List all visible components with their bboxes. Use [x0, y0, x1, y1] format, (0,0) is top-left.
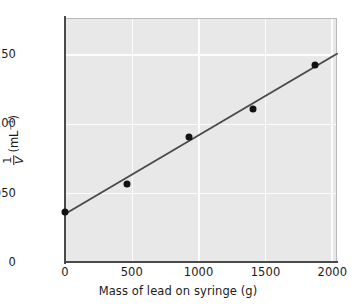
x-tick-label: 0 — [61, 265, 68, 279]
y-axis-unit-close: ) — [7, 115, 21, 120]
fraction-denominator: V — [13, 156, 25, 166]
gridline-horizontal-0100 — [65, 124, 336, 126]
plot-area — [65, 18, 337, 262]
x-tick-label: 1500 — [251, 265, 281, 279]
fraction-numerator: 1 — [2, 156, 13, 165]
x-tick-label: 2000 — [317, 265, 347, 279]
gridline-horizontal-0050 — [65, 193, 336, 195]
y-axis-unit-open: (mL — [7, 130, 21, 152]
y-axis-line — [64, 16, 66, 264]
data-point — [123, 181, 130, 188]
y-axis-unit: (mL−1) — [7, 115, 22, 153]
x-axis-line — [64, 261, 338, 263]
data-point — [249, 106, 256, 113]
data-point — [62, 209, 69, 216]
chart-figure: 0 0.050 0.100 0.150 0 500 1000 1500 2000… — [0, 0, 356, 308]
data-point — [185, 133, 192, 140]
x-tick-label: 500 — [121, 265, 143, 279]
y-tick-label: 0.050 — [0, 186, 16, 200]
y-tick-label: 0.150 — [0, 47, 16, 61]
y-axis-title: 1 V (mL−1) — [2, 115, 25, 165]
data-point — [311, 61, 318, 68]
x-tick-label: 1000 — [184, 265, 214, 279]
gridline-horizontal-0150 — [65, 54, 336, 56]
x-axis-title: Mass of lead on syringe (g) — [0, 284, 356, 298]
y-tick-label: 0 — [9, 255, 16, 269]
y-axis-unit-exponent: −1 — [7, 119, 16, 130]
y-axis-title-fraction: 1 V — [2, 156, 25, 166]
